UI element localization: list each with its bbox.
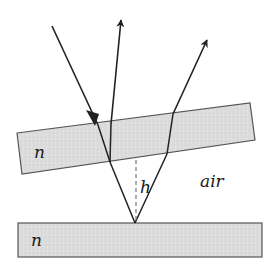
bottom-plate xyxy=(18,223,262,257)
air-label: air xyxy=(200,171,225,191)
transmitted-ray-right xyxy=(173,40,207,114)
middle-ray-in-plate xyxy=(110,124,111,162)
incident-ray xyxy=(52,26,98,125)
reflected-ray-middle xyxy=(111,20,121,124)
bottom-plate-index-label: n xyxy=(31,230,42,250)
gap-ray-down xyxy=(110,162,135,223)
gap-height-label: h xyxy=(140,177,151,197)
top-plate-index-label: n xyxy=(34,142,45,162)
diagram-canvas: n n h air xyxy=(0,0,275,270)
